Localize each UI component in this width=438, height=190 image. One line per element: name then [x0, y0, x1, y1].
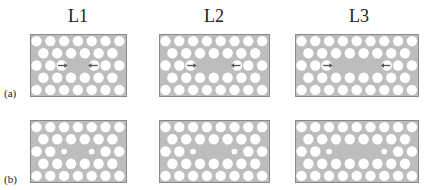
- air-hole: [195, 48, 205, 58]
- air-hole: [160, 122, 170, 132]
- air-hole: [345, 134, 355, 144]
- air-hole: [317, 159, 327, 169]
- air-hole: [407, 36, 417, 46]
- air-hole: [345, 48, 355, 58]
- air-hole: [45, 122, 55, 132]
- air-hole: [107, 48, 117, 58]
- air-hole: [38, 159, 48, 169]
- air-hole: [80, 134, 90, 144]
- air-hole: [100, 171, 110, 181]
- air-hole: [296, 36, 306, 46]
- column-title-l3: L3: [329, 6, 389, 27]
- air-hole: [310, 60, 320, 70]
- air-hole: [73, 85, 83, 95]
- air-hole: [338, 36, 348, 46]
- air-hole: [400, 159, 410, 169]
- air-hole: [296, 85, 306, 95]
- air-hole: [209, 48, 219, 58]
- photonic-crystal-slab: [159, 34, 270, 97]
- air-hole: [45, 171, 55, 181]
- air-hole: [326, 149, 332, 155]
- air-hole: [317, 48, 327, 58]
- air-hole: [174, 85, 184, 95]
- air-hole: [229, 36, 239, 46]
- air-hole: [222, 73, 232, 83]
- photonic-crystal-slab: [295, 34, 419, 97]
- air-hole: [250, 73, 260, 83]
- air-hole: [59, 171, 69, 181]
- air-hole: [80, 73, 90, 83]
- air-hole: [31, 146, 41, 156]
- air-hole: [338, 85, 348, 95]
- air-hole: [250, 159, 260, 169]
- air-hole: [379, 171, 389, 181]
- air-hole: [114, 171, 124, 181]
- air-hole: [257, 85, 267, 95]
- air-hole: [59, 85, 69, 95]
- photonic-crystal-slab: [30, 120, 127, 183]
- air-hole: [73, 122, 83, 132]
- air-hole: [386, 48, 396, 58]
- air-hole: [160, 36, 170, 46]
- air-hole: [324, 122, 334, 132]
- air-hole: [303, 48, 313, 58]
- air-hole: [372, 159, 382, 169]
- air-hole: [52, 159, 62, 169]
- air-hole: [87, 171, 97, 181]
- air-hole: [257, 36, 267, 46]
- air-hole: [352, 85, 362, 95]
- air-hole: [386, 134, 396, 144]
- air-hole: [386, 73, 396, 83]
- air-hole: [93, 48, 103, 58]
- air-hole: [160, 60, 170, 70]
- photonic-crystal-slab: [159, 120, 270, 183]
- air-hole: [87, 85, 97, 95]
- air-hole: [31, 171, 41, 181]
- air-hole: [400, 48, 410, 58]
- air-hole: [167, 134, 177, 144]
- air-hole: [386, 159, 396, 169]
- air-hole: [100, 85, 110, 95]
- air-hole: [195, 134, 205, 144]
- air-hole: [296, 122, 306, 132]
- air-hole: [100, 60, 110, 70]
- air-hole: [317, 73, 327, 83]
- air-hole: [358, 159, 368, 169]
- air-hole: [324, 36, 334, 46]
- air-hole: [181, 48, 191, 58]
- air-hole: [38, 73, 48, 83]
- air-hole: [52, 134, 62, 144]
- air-hole: [400, 134, 410, 144]
- air-hole: [107, 159, 117, 169]
- air-hole: [216, 122, 226, 132]
- air-hole: [372, 73, 382, 83]
- air-hole: [331, 159, 341, 169]
- air-hole: [80, 48, 90, 58]
- air-hole: [236, 48, 246, 58]
- air-hole: [365, 122, 375, 132]
- air-hole: [257, 146, 267, 156]
- air-hole: [66, 48, 76, 58]
- air-hole: [87, 122, 97, 132]
- air-hole: [160, 85, 170, 95]
- air-hole: [296, 60, 306, 70]
- air-hole: [310, 171, 320, 181]
- air-hole: [243, 85, 253, 95]
- air-hole: [345, 159, 355, 169]
- air-hole: [114, 122, 124, 132]
- air-hole: [372, 134, 382, 144]
- air-hole: [296, 146, 306, 156]
- air-hole: [243, 36, 253, 46]
- air-hole: [358, 48, 368, 58]
- air-hole: [393, 60, 403, 70]
- air-hole: [174, 146, 184, 156]
- air-hole: [174, 122, 184, 132]
- air-hole: [407, 146, 417, 156]
- column-title-l2: L2: [184, 6, 244, 27]
- air-hole: [188, 36, 198, 46]
- air-hole: [174, 36, 184, 46]
- air-hole: [195, 159, 205, 169]
- air-hole: [216, 85, 226, 95]
- air-hole: [216, 171, 226, 181]
- air-hole: [303, 159, 313, 169]
